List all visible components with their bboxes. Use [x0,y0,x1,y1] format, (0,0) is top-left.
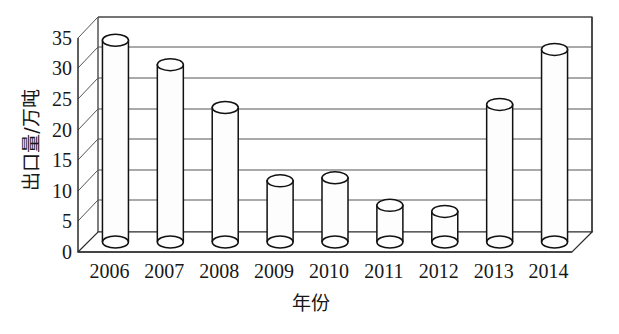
bar-top-ellipse [212,101,238,113]
bar-top-ellipse [432,205,458,217]
y-axis-title: 出口量/万吨 [20,89,42,190]
bar-top-ellipse [102,34,128,46]
bar-2007[interactable] [157,59,183,248]
bar-top-ellipse [542,43,568,55]
bar-chart-canvas: 35 30 25 20 15 10 5 0 200620072008200920… [0,0,619,334]
bar-top-ellipse [267,175,293,187]
x-tick-2007: 2007 [144,260,184,282]
bar-body [542,49,568,248]
bar-2009[interactable] [267,175,293,248]
y-tick-20: 20 [52,119,72,141]
y-tick-35: 35 [52,27,72,49]
bar-2012[interactable] [432,205,458,248]
x-tick-2011: 2011 [364,260,403,282]
bar-2010[interactable] [322,172,348,248]
bar-series-group [102,34,567,248]
chart-figure: 35 30 25 20 15 10 5 0 200620072008200920… [0,0,619,334]
bar-2013[interactable] [487,98,513,248]
x-tick-2010: 2010 [309,260,349,282]
y-tick-15: 15 [52,149,72,171]
x-axis-title: 年份 [292,292,330,314]
bar-top-ellipse [377,199,403,211]
x-tick-labels: 200620072008200920102011201220132014 [89,260,568,282]
bar-2008[interactable] [212,101,238,248]
x-tick-2009: 2009 [254,260,294,282]
x-tick-2012: 2012 [419,260,459,282]
bar-body [487,104,513,248]
bar-body [102,40,128,248]
bar-top-ellipse [157,59,183,71]
bar-2011[interactable] [377,199,403,248]
x-tick-2014: 2014 [529,260,569,282]
bar-top-ellipse [322,172,348,184]
y-tick-0: 0 [62,241,72,263]
x-tick-2006: 2006 [89,260,129,282]
x-tick-2008: 2008 [199,260,239,282]
y-tick-labels: 35 30 25 20 15 10 5 0 [52,27,72,263]
x-tick-2013: 2013 [474,260,514,282]
y-tick-5: 5 [62,210,72,232]
y-tick-10: 10 [52,180,72,202]
bar-body [212,107,238,248]
y-tick-25: 25 [52,88,72,110]
bar-body [157,65,183,248]
bar-2014[interactable] [542,43,568,248]
y-tick-30: 30 [52,57,72,79]
bar-top-ellipse [487,98,513,110]
bar-2006[interactable] [102,34,128,248]
